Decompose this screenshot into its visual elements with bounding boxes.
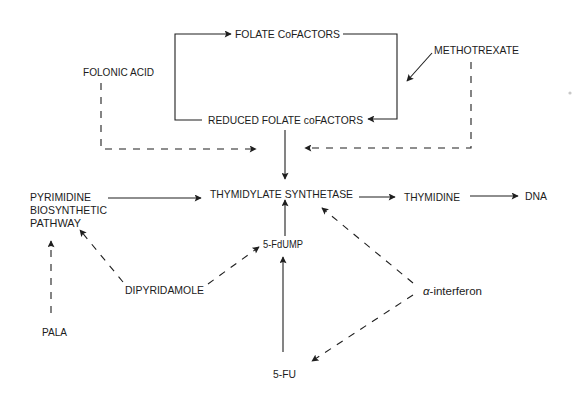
node-thymidine: THYMIDINE [404, 191, 460, 203]
edge-methotrexate-inhibits-cycle [407, 53, 432, 81]
node-5fu: 5-FU [273, 368, 296, 380]
node-dna: DNA [525, 190, 547, 202]
node-thymidylate-synthetase: THYMIDYLATE SYNTHETASE [210, 188, 353, 200]
interferon-label: -interferon [430, 285, 482, 297]
node-pyrimidine-line3: PATHWAY [30, 217, 81, 229]
edge-folate-to-reduced-cofactors [343, 34, 397, 119]
edge-methotrexate-to-ts [305, 62, 471, 148]
scan-speck [568, 91, 571, 94]
edge-interferon-to-5fu [312, 295, 413, 361]
node-fdump: 5-FdUMP [263, 238, 303, 250]
node-alpha-interferon: α-interferon [423, 285, 482, 297]
edge-reduced-to-folate-cofactors [175, 34, 231, 120]
node-folonic-acid: FOLONIC ACID [83, 66, 154, 78]
node-pala: PALA [42, 326, 67, 338]
node-pyrimidine-line2: BIOSYNTHETIC [30, 204, 107, 216]
edge-dipyridamole-to-fdump [208, 247, 259, 284]
edge-interferon-to-ts [322, 208, 413, 283]
node-reduced-folate-cofactors: REDUCED FOLATE coFACTORS [208, 114, 363, 126]
node-pyrimidine-line1: PYRIMIDINE [30, 191, 91, 203]
edge-dipyridamole-to-pathway [80, 230, 123, 282]
folate-thymidylate-pathway-diagram: FOLATE CoFACTORS REDUCED FOLATE coFACTOR… [0, 0, 578, 395]
node-dipyridamole: DIPYRIDAMOLE [125, 284, 204, 296]
node-folate-cofactors: FOLATE CoFACTORS [235, 28, 340, 40]
node-methotrexate: METHOTREXATE [434, 44, 519, 56]
